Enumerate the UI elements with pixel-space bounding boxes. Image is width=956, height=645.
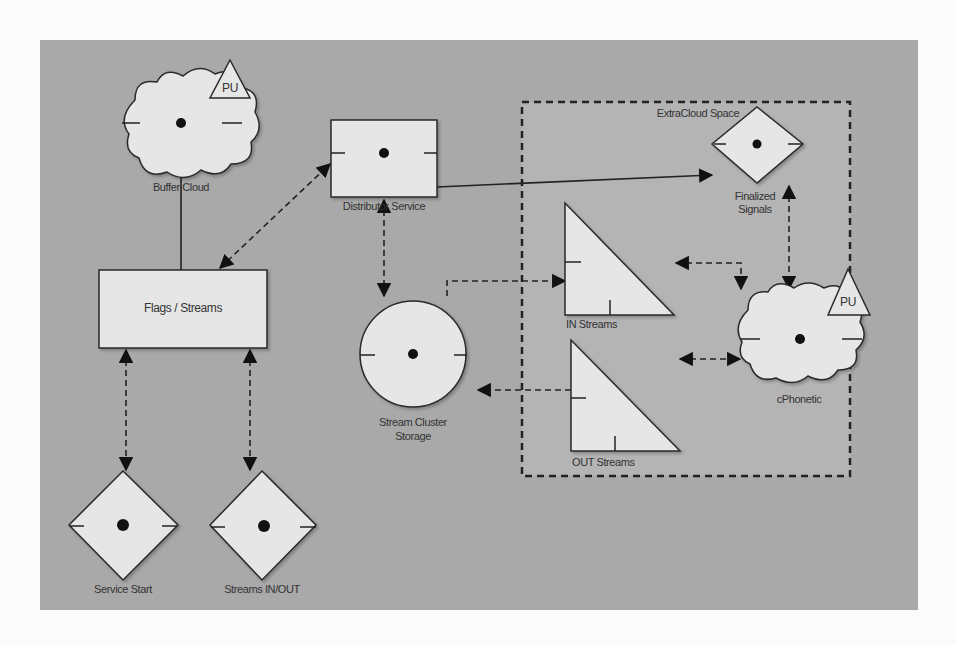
flags-streams-label: Flags / Streams [99,302,267,315]
finalized-center-dot [753,140,762,149]
cphonetic-label: cPhonetic [764,393,834,406]
storage-label-line1: Stream Cluster [363,416,463,429]
buffer-cloud-pu-badge: PU [219,82,241,95]
buffer-cloud-label: Buffer Cloud [131,181,231,194]
buffer-cloud-center-dot [176,118,186,128]
in-streams-label: IN Streams [566,318,626,331]
out-streams-label: OUT Streams [572,456,642,469]
edge-flags-distributor [220,164,330,268]
service-start-label: Service Start [73,583,173,596]
extracloud-space-label: ExtraCloud Space [648,107,748,120]
distributor-service-label: Distributor Service [325,200,443,213]
cphonetic-center-dot [795,334,805,344]
streams-in-out-label: Streams IN/OUT [212,583,312,596]
streams-in-out-center-dot [258,520,270,532]
diagram-svg [0,0,956,645]
distributor-center-dot [379,148,389,158]
distributor-service-node[interactable] [331,120,437,197]
storage-center-dot [408,349,418,359]
cphonetic-pu-badge: PU [837,296,859,309]
service-start-center-dot [117,519,129,531]
storage-label-line2: Storage [363,430,463,443]
finalized-signals-label-line1: Finalized [725,190,785,203]
finalized-signals-label-line2: Signals [725,203,785,216]
